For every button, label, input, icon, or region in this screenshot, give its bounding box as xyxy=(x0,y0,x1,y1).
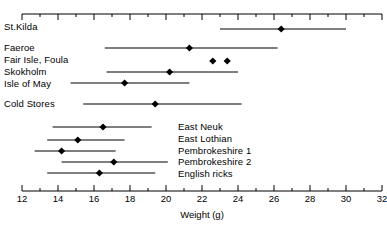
marker-fair-isle-foula xyxy=(209,57,216,64)
category-label-fair-isle-foula: Fair Isle, Foula xyxy=(4,55,68,65)
x-tick-label-26: 26 xyxy=(269,194,280,204)
category-label-st-kilda: St.Kilda xyxy=(4,22,38,32)
category-label-skokholm: Skokholm xyxy=(4,67,47,77)
marker-english-ricks xyxy=(96,169,103,176)
category-label-east-lothian: East Lothian xyxy=(178,134,232,144)
category-label-english-ricks: English ricks xyxy=(178,169,233,179)
marker-east-neuk xyxy=(99,123,106,130)
x-tick-label-12: 12 xyxy=(17,194,28,204)
category-label-east-neuk: East Neuk xyxy=(178,122,223,132)
marker-pembrokeshire-2 xyxy=(110,158,117,165)
x-tick-label-30: 30 xyxy=(341,194,352,204)
marker-st-kilda xyxy=(278,25,285,32)
marker-skokholm xyxy=(166,68,173,75)
x-tick-label-28: 28 xyxy=(305,194,316,204)
category-label-pembrokeshire-1: Pembrokeshire 1 xyxy=(178,146,251,156)
category-label-isle-of-may: Isle of May xyxy=(4,79,51,89)
marker-pembrokeshire-1 xyxy=(58,147,65,154)
x-tick-label-16: 16 xyxy=(89,194,100,204)
marker-cold-stores xyxy=(152,100,159,107)
x-tick-label-20: 20 xyxy=(161,194,172,204)
x-tick-label-24: 24 xyxy=(233,194,244,204)
marker-east-lothian xyxy=(74,136,81,143)
category-label-faeroe: Faeroe xyxy=(4,43,35,53)
category-label-cold-stores: Cold Stores xyxy=(4,99,55,109)
marker-faeroe xyxy=(186,44,193,51)
x-tick-label-22: 22 xyxy=(197,194,208,204)
x-tick-label-32: 32 xyxy=(377,194,387,204)
x-tick-label-18: 18 xyxy=(125,194,136,204)
category-label-pembrokeshire-2: Pembrokeshire 2 xyxy=(178,157,251,167)
x-tick-label-14: 14 xyxy=(53,194,64,204)
marker-isle-of-may xyxy=(121,79,128,86)
marker-fair-isle-foula-extra-1 xyxy=(224,57,231,64)
x-axis-title: Weight (g) xyxy=(180,210,224,220)
